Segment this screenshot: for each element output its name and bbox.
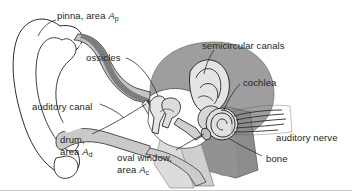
label-auditory-nerve: auditory nerve [276,132,338,144]
semicircular-canals [189,60,229,113]
label-semicircular-canals: semicircular canals [202,40,285,52]
label-pinna: pinna, area Ap [57,10,119,23]
label-drum-subscript: d [89,151,93,158]
ear-anatomy-illustration [0,0,352,191]
label-drum-line2: area [60,146,82,157]
label-drum-line1: drum, [60,134,85,145]
label-pinna-symbol: A [108,10,114,21]
label-oval-window: oval window, area Ac [117,152,172,176]
label-oval-window-subscript: c [146,169,150,176]
ear-lobe [54,156,78,178]
label-drum-symbol: A [82,146,88,157]
ear-anatomy-figure: pinna, area Ap ossicles semicircular can… [0,0,352,191]
label-pinna-text: pinna, area [57,10,108,21]
label-drum: drum, area Ad [60,134,93,158]
label-auditory-canal: auditory canal [32,101,93,113]
label-oval-window-symbol: A [139,164,145,175]
label-oval-window-line1: oval window, [117,152,172,163]
label-bone: bone [266,153,288,165]
label-ossicles: ossicles [86,52,121,64]
label-cochlea: cochlea [243,77,276,89]
label-oval-window-line2: area [117,164,139,175]
label-pinna-subscript: p [115,15,119,22]
